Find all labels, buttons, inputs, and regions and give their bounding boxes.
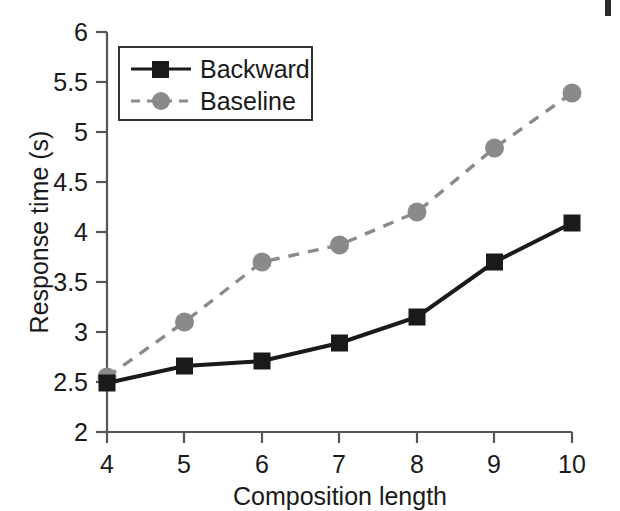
y-axis-title: Response time (s) [25, 131, 53, 334]
y-tick-label: 6 [74, 18, 88, 46]
y-tick-label: 2 [74, 418, 88, 446]
data-point[interactable] [176, 358, 193, 375]
x-tick-labels: 4 5 6 7 8 9 10 [100, 450, 586, 478]
data-point[interactable] [564, 215, 581, 232]
data-point[interactable] [563, 84, 582, 103]
data-point[interactable] [99, 375, 116, 392]
x-axis-ticks [107, 432, 572, 443]
x-tick-label: 6 [255, 450, 269, 478]
data-point[interactable] [330, 236, 349, 255]
x-tick-label: 10 [558, 450, 586, 478]
chart-legend[interactable]: Backward Baseline [119, 47, 312, 120]
legend-label-baseline: Baseline [200, 87, 296, 115]
figure-container: 6 5.5 5 4.5 4 3.5 3 2.5 2 4 5 6 7 8 9 10… [0, 0, 620, 511]
y-tick-label: 5.5 [53, 68, 88, 96]
square-marker-icon [152, 61, 169, 78]
data-point[interactable] [254, 353, 271, 370]
y-tick-label: 5 [74, 118, 88, 146]
y-tick-label: 4.5 [53, 168, 88, 196]
data-point[interactable] [331, 335, 348, 352]
data-point[interactable] [485, 139, 504, 158]
y-tick-label: 3.5 [53, 268, 88, 296]
circle-marker-icon [152, 92, 170, 110]
x-tick-label: 9 [487, 450, 501, 478]
data-point[interactable] [409, 309, 426, 326]
x-tick-label: 8 [410, 450, 424, 478]
x-tick-label: 4 [100, 450, 114, 478]
scan-artifact-mark [605, 0, 611, 16]
data-point[interactable] [486, 254, 503, 271]
data-point[interactable] [253, 253, 272, 272]
legend-label-backward: Backward [200, 55, 310, 83]
data-point[interactable] [175, 313, 194, 332]
x-tick-label: 5 [177, 450, 191, 478]
x-axis-title: Composition length [233, 482, 447, 510]
data-point[interactable] [408, 203, 427, 222]
response-time-line-chart: 6 5.5 5 4.5 4 3.5 3 2.5 2 4 5 6 7 8 9 10… [0, 0, 620, 511]
y-tick-label: 4 [74, 218, 88, 246]
y-tick-labels: 6 5.5 5 4.5 4 3.5 3 2.5 2 [53, 18, 88, 446]
y-tick-label: 3 [74, 318, 88, 346]
y-tick-label: 2.5 [53, 368, 88, 396]
x-tick-label: 7 [332, 450, 346, 478]
